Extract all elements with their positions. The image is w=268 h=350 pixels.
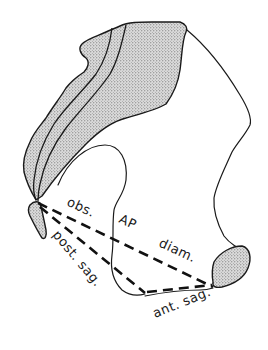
pubic-symphysis-shaded <box>212 246 250 287</box>
pelvis-diagram: obs. AP diam. post. sag. ant. sag. <box>0 0 268 350</box>
label-ap: AP <box>117 211 139 232</box>
pelvic-outline-right <box>187 30 251 252</box>
label-post-sag: post. sag. <box>50 227 106 289</box>
label-obs: obs. <box>65 194 98 220</box>
sacrum-tip-shaded <box>29 202 47 239</box>
label-diam: diam. <box>157 235 199 265</box>
ilium-shaded <box>23 22 186 200</box>
